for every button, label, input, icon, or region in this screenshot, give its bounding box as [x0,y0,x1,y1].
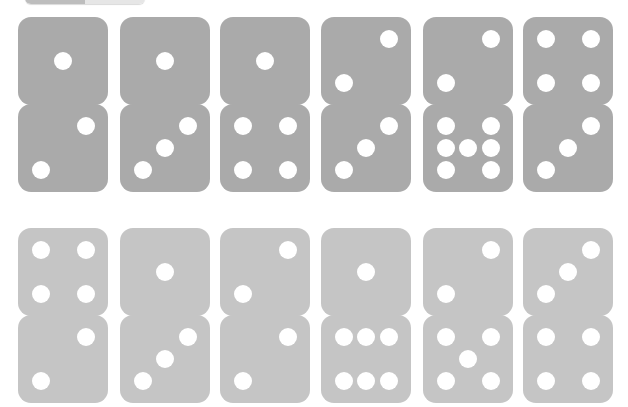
pip-icon [482,30,500,48]
die-face-three-icon[interactable] [120,315,210,403]
pip-icon [335,161,353,179]
pip-icon [179,328,197,346]
pip-icon [134,161,152,179]
pip-icon [582,372,600,390]
pip-icon [234,117,252,135]
pip-icon [482,117,500,135]
pip-icon [537,74,555,92]
pip-icon [437,74,455,92]
pip-icon [179,117,197,135]
die-face-four-icon[interactable] [220,104,310,192]
pip-icon [156,263,174,281]
pip-icon [482,139,500,157]
pip-icon [335,372,353,390]
pip-icon [582,30,600,48]
pip-icon [582,328,600,346]
die-face-two-icon[interactable] [321,17,411,105]
pip-icon [559,263,577,281]
pip-icon [380,372,398,390]
pip-icon [437,328,455,346]
pip-icon [380,117,398,135]
die-face-one-icon[interactable] [120,17,210,105]
segment-1[interactable] [25,0,85,4]
die-face-four-icon[interactable] [523,315,613,403]
pip-icon [234,372,252,390]
die-face-seven-icon[interactable] [423,104,513,192]
pip-icon [437,117,455,135]
die-face-two-icon[interactable] [423,17,513,105]
pip-icon [156,139,174,157]
pip-icon [582,74,600,92]
pip-icon [380,328,398,346]
pip-icon [537,328,555,346]
pip-icon [77,328,95,346]
pip-icon [335,328,353,346]
die-face-one-icon[interactable] [120,228,210,316]
die-face-six-icon[interactable] [321,315,411,403]
pip-icon [279,117,297,135]
pip-icon [437,372,455,390]
pip-icon [459,139,477,157]
pip-icon [582,241,600,259]
pip-icon [357,328,375,346]
pip-icon [156,52,174,70]
pip-icon [32,241,50,259]
pip-icon [77,241,95,259]
pip-icon [482,372,500,390]
pip-icon [156,350,174,368]
pip-icon [437,285,455,303]
pip-icon [32,372,50,390]
pip-icon [459,350,477,368]
die-face-two-icon[interactable] [220,315,310,403]
die-face-four-icon[interactable] [523,17,613,105]
pip-icon [279,241,297,259]
die-face-five-icon[interactable] [423,315,513,403]
die-face-two-icon[interactable] [18,104,108,192]
die-face-two-icon[interactable] [423,228,513,316]
die-face-three-icon[interactable] [523,228,613,316]
die-face-one-icon[interactable] [220,17,310,105]
die-face-one-icon[interactable] [321,228,411,316]
pip-icon [32,161,50,179]
pip-icon [54,52,72,70]
pip-icon [537,285,555,303]
pip-icon [437,139,455,157]
pip-icon [256,52,274,70]
pip-icon [482,241,500,259]
pip-icon [357,139,375,157]
pip-icon [279,161,297,179]
pip-icon [537,372,555,390]
segmented-control[interactable] [25,0,145,4]
die-face-three-icon[interactable] [321,104,411,192]
pip-icon [437,161,455,179]
pip-icon [537,161,555,179]
pip-icon [357,372,375,390]
pip-icon [77,285,95,303]
pip-icon [134,372,152,390]
die-face-one-icon[interactable] [18,17,108,105]
pip-icon [537,30,555,48]
pip-icon [357,263,375,281]
pip-icon [559,139,577,157]
pip-icon [234,285,252,303]
pip-icon [234,161,252,179]
die-face-two-icon[interactable] [18,315,108,403]
die-face-two-icon[interactable] [220,228,310,316]
pip-icon [482,161,500,179]
pip-icon [32,285,50,303]
die-face-four-icon[interactable] [18,228,108,316]
pip-icon [582,117,600,135]
segment-2[interactable] [85,0,145,4]
pip-icon [482,328,500,346]
pip-icon [77,117,95,135]
pip-icon [380,30,398,48]
pip-icon [335,74,353,92]
die-face-three-icon[interactable] [523,104,613,192]
die-face-three-icon[interactable] [120,104,210,192]
pip-icon [279,328,297,346]
